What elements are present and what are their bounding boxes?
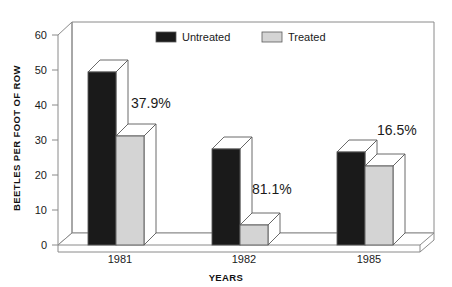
- y-tick-label-0: 0: [41, 239, 47, 251]
- legend-item-treated[interactable]: Treated: [262, 31, 326, 43]
- y-tick-label-10: 10: [35, 204, 47, 216]
- y-tick-label-60: 60: [35, 29, 47, 41]
- legend-swatch-untreated: [156, 32, 176, 42]
- left-wall: [58, 22, 72, 245]
- bar-front-face: [212, 149, 240, 245]
- bar-front-face: [240, 225, 268, 245]
- y-tick-20: 20: [35, 169, 58, 181]
- annotation-1982: 81.1%: [252, 181, 292, 197]
- chart-legend: Untreated Treated: [156, 31, 326, 43]
- y-axis-title: BEETLES PER FOOT OF ROW: [11, 65, 22, 211]
- annotation-1981: 37.9%: [131, 95, 171, 111]
- annotation-1985: 16.5%: [377, 122, 417, 138]
- y-tick-30: 30: [35, 134, 58, 146]
- y-tick-50: 50: [35, 64, 58, 76]
- x-tick-label-1981: 1981: [108, 253, 132, 265]
- y-tick-label-20: 20: [35, 169, 47, 181]
- bar-front-face: [337, 152, 365, 245]
- y-tick-10: 10: [35, 204, 58, 216]
- bar-group-1982: 81.1% 1982: [212, 137, 292, 265]
- legend-label-untreated: Untreated: [182, 31, 230, 43]
- legend-swatch-treated: [262, 32, 282, 42]
- y-tick-0: 0: [41, 239, 58, 251]
- y-tick-label-30: 30: [35, 134, 47, 146]
- beetles-per-foot-of-row-bar-chart: 0 10 20 30 40 50: [0, 0, 452, 287]
- y-tick-40: 40: [35, 99, 58, 111]
- y-tick-label-50: 50: [35, 64, 47, 76]
- y-tick-label-40: 40: [35, 99, 47, 111]
- bar-front-face: [88, 72, 116, 245]
- bar-treated-1985: [365, 154, 405, 245]
- legend-label-treated: Treated: [288, 31, 326, 43]
- legend-item-untreated[interactable]: Untreated: [156, 31, 230, 43]
- bar-side-face: [393, 154, 405, 245]
- floor-bottom-edge: [58, 245, 420, 252]
- x-axis-title: YEARS: [209, 272, 244, 283]
- y-axis: 0 10 20 30 40 50: [35, 29, 58, 251]
- bar-front-face: [365, 166, 393, 245]
- bar-treated-1981: [116, 124, 156, 245]
- x-tick-label-1985: 1985: [357, 253, 381, 265]
- y-tick-60: 60: [35, 29, 58, 41]
- chart-container: 0 10 20 30 40 50: [0, 0, 452, 287]
- bar-side-face: [144, 124, 156, 245]
- bar-front-face: [116, 136, 144, 245]
- x-tick-label-1982: 1982: [232, 253, 256, 265]
